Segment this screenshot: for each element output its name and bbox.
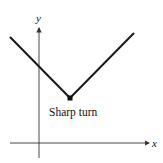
- v-shaped-curve: [10, 33, 134, 98]
- sharp-turn-label: Sharp turn: [49, 106, 97, 119]
- y-axis-label: y: [35, 12, 41, 24]
- graph-canvas: x y Sharp turn: [0, 0, 163, 163]
- vertex-point: [68, 96, 73, 101]
- x-axis-label: x: [151, 137, 157, 149]
